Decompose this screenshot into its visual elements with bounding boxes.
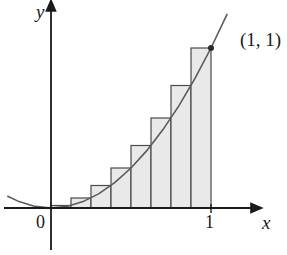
x-axis-label: x: [262, 213, 270, 232]
x-tick-label-one: 1: [205, 213, 214, 231]
point-marker-1-1: [208, 45, 214, 51]
riemann-bar: [111, 168, 131, 208]
riemann-sum-figure: y x 0 1 (1, 1): [0, 0, 287, 255]
riemann-rectangles: [51, 48, 211, 208]
origin-label: 0: [36, 213, 45, 231]
riemann-bar: [131, 146, 151, 209]
riemann-bar: [171, 86, 191, 209]
riemann-bar: [191, 48, 211, 208]
y-axis-label: y: [36, 2, 44, 21]
point-label-1-1: (1, 1): [240, 30, 281, 49]
